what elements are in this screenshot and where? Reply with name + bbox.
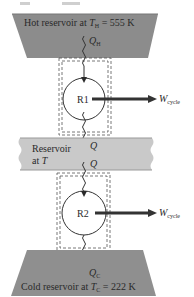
hot-reservoir: Hot reservoir at TH = 555 K QH	[12, 14, 158, 58]
cropped-top-fragment	[20, 2, 80, 5]
two-engine-diagram: Hot reservoir at TH = 555 K QH R1 Wcycle…	[0, 0, 194, 297]
q-mid-out-label: Q	[90, 140, 98, 151]
work2-arrowhead	[148, 209, 157, 217]
cold-reservoir-label: Cold reservoir at	[21, 281, 91, 292]
q-mid-in-label: Q	[90, 158, 98, 169]
engine1-label: R1	[77, 94, 89, 105]
middle-reservoir: Reservoir at T Q Q	[19, 138, 154, 170]
svg-text:Cold reservoir at TC = 222 K: Cold reservoir at TC = 222 K	[21, 281, 136, 293]
engine2-label: R2	[77, 208, 89, 219]
middle-reservoir-line2: at T	[32, 155, 49, 166]
svg-text:Hot reservoir at TH = 555 K: Hot reservoir at TH = 555 K	[24, 17, 135, 29]
hot-reservoir-label: Hot reservoir at	[24, 17, 89, 28]
cold-reservoir: QC Cold reservoir at TC = 222 K	[11, 250, 156, 296]
work1-label: Wcycle	[159, 93, 180, 105]
work1-arrowhead	[148, 95, 157, 103]
middle-reservoir-line1: Reservoir	[32, 143, 72, 154]
work2-label: Wcycle	[159, 207, 180, 219]
